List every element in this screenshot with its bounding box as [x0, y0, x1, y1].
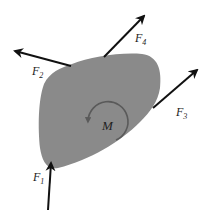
rigid-body: [39, 54, 161, 169]
force-f4: F4: [104, 16, 146, 57]
arrow-left-icon: [15, 51, 71, 66]
moment-label: M: [101, 118, 114, 133]
svg-text:F2: F2: [31, 64, 43, 80]
arrow-up-icon: [48, 163, 51, 210]
svg-text:F4: F4: [134, 31, 146, 47]
force-f1: F1: [32, 163, 51, 210]
svg-text:F3: F3: [175, 105, 187, 121]
free-body-diagram: M F1 F2 F3 F4: [0, 0, 207, 215]
svg-text:F1: F1: [32, 170, 44, 186]
